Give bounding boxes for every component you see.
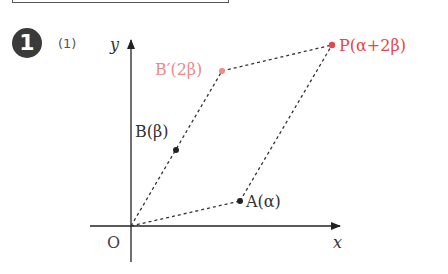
x-axis-label: x	[333, 233, 342, 252]
point-Bprime	[219, 68, 225, 74]
label-A: A(α)	[245, 192, 281, 211]
y-axis-label: y	[109, 35, 120, 54]
label-B: B(β)	[135, 122, 169, 141]
point-B	[173, 147, 179, 153]
segment-O-A	[131, 201, 240, 226]
point-P	[329, 42, 335, 48]
label-P: P(α+2β)	[339, 36, 406, 55]
label-Bprime: B′(2β)	[155, 60, 202, 79]
vector-diagram: y x O A(α) B(β) B′(2β) P(α+2β)	[0, 0, 448, 274]
point-A	[237, 198, 243, 204]
origin-label: O	[107, 233, 120, 252]
segment-A-P	[240, 45, 332, 201]
segment-Bprime-P	[222, 45, 332, 71]
